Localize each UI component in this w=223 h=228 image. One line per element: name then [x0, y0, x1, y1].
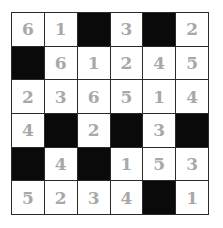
number-cell[interactable]: 1 — [143, 80, 175, 113]
number-cell[interactable]: 5 — [12, 181, 44, 214]
number-cell[interactable]: 6 — [45, 47, 77, 80]
number-cell[interactable]: 5 — [176, 47, 208, 80]
number-cell[interactable]: 4 — [12, 114, 44, 147]
number-cell[interactable]: 3 — [78, 181, 110, 214]
number-cell[interactable]: 4 — [45, 148, 77, 181]
shaded-cell[interactable] — [143, 181, 175, 214]
number-cell[interactable]: 2 — [111, 47, 143, 80]
number-cell[interactable]: 4 — [111, 181, 143, 214]
number-cell[interactable]: 6 — [78, 80, 110, 113]
number-cell[interactable]: 2 — [78, 114, 110, 147]
number-cell[interactable]: 4 — [143, 47, 175, 80]
number-cell[interactable]: 1 — [78, 47, 110, 80]
shaded-cell[interactable] — [45, 114, 77, 147]
number-cell[interactable]: 6 — [12, 13, 44, 46]
shaded-cell[interactable] — [12, 47, 44, 80]
shaded-cell[interactable] — [78, 13, 110, 46]
shaded-cell[interactable] — [12, 148, 44, 181]
shaded-cell[interactable] — [143, 13, 175, 46]
number-cell[interactable]: 2 — [45, 181, 77, 214]
shaded-cell[interactable] — [176, 114, 208, 147]
number-cell[interactable]: 1 — [111, 148, 143, 181]
number-cell[interactable]: 2 — [176, 13, 208, 46]
number-cell[interactable]: 1 — [176, 181, 208, 214]
number-cell[interactable]: 5 — [143, 148, 175, 181]
puzzle-grid: 613261245236514423415352341 — [11, 12, 209, 215]
number-cell[interactable]: 3 — [143, 114, 175, 147]
number-cell[interactable]: 3 — [111, 13, 143, 46]
number-cell[interactable]: 3 — [176, 148, 208, 181]
number-cell[interactable]: 3 — [45, 80, 77, 113]
number-cell[interactable]: 2 — [12, 80, 44, 113]
number-cell[interactable]: 4 — [176, 80, 208, 113]
shaded-cell[interactable] — [111, 114, 143, 147]
shaded-cell[interactable] — [78, 148, 110, 181]
number-cell[interactable]: 5 — [111, 80, 143, 113]
number-cell[interactable]: 1 — [45, 13, 77, 46]
